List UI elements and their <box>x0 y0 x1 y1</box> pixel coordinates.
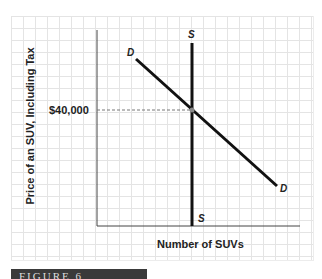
supply-label-bottom: S <box>198 213 205 224</box>
figure-label: FIGURE 6 <box>11 269 147 279</box>
y-axis-label: Price of an SUV, Including Tax <box>24 47 36 204</box>
demand-label-top: D <box>127 47 134 58</box>
demand-label-bottom: D <box>280 183 287 194</box>
supply-label-top: S <box>188 29 195 40</box>
x-axis-label: Number of SUVs <box>157 238 244 250</box>
demand-curve <box>136 59 277 186</box>
price-tick-label: $40,000 <box>49 104 89 116</box>
equilibrium-point <box>190 108 195 113</box>
